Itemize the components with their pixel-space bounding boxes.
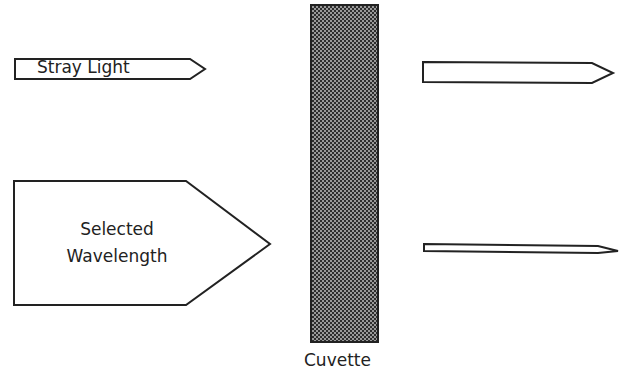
selected-wavelength-label: Selected Wavelength: [50, 216, 184, 270]
stray-light-label: Stray Light: [37, 59, 130, 76]
selected-wavelength-label-line2: Wavelength: [50, 243, 184, 270]
selected-wavelength-output-arrow: [424, 244, 618, 253]
cuvette: [311, 5, 378, 342]
cuvette-label: Cuvette: [304, 352, 371, 369]
selected-wavelength-label-line1: Selected: [50, 216, 184, 243]
stray-light-output-arrow: [423, 62, 613, 83]
